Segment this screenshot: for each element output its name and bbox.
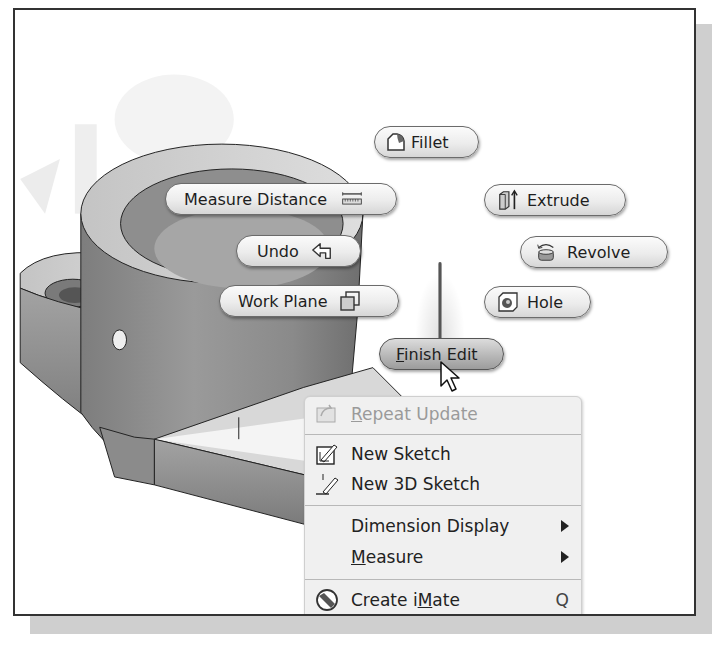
marking-menu-revolve-button[interactable]: Revolve <box>520 236 668 268</box>
create-imate-label: Create iMate <box>351 590 460 610</box>
menu-separator <box>305 579 581 580</box>
repeat-update-icon <box>315 402 339 426</box>
menu-separator <box>305 434 581 435</box>
new-sketch-icon <box>315 442 339 466</box>
create-imate-icon <box>315 588 339 612</box>
menu-item-dimension-display[interactable]: Dimension Display <box>305 511 581 541</box>
dimension-display-label: Dimension Display <box>351 516 509 536</box>
revolve-icon <box>535 241 557 263</box>
marking-menu-fillet-button[interactable]: Fillet <box>374 126 479 158</box>
extrude-icon <box>497 189 519 211</box>
marking-menu-extrude-button[interactable]: Extrude <box>484 184 626 216</box>
marking-menu-direction-indicator <box>438 262 442 348</box>
menu-item-repeat-update[interactable]: Repeat Update <box>305 399 581 429</box>
submenu-arrow-icon <box>561 520 569 532</box>
new-3d-sketch-label: New 3D Sketch <box>351 474 480 494</box>
fillet-label: Fillet <box>407 133 453 152</box>
repeat-update-label: Repeat Update <box>351 404 478 424</box>
measure-label: Measure <box>351 547 423 567</box>
menu-item-create-imate[interactable]: Create iMate Q <box>305 585 581 615</box>
hole-label: Hole <box>519 293 567 312</box>
hole-icon <box>497 291 519 313</box>
marking-menu-undo-button[interactable]: Undo <box>236 235 361 267</box>
menu-item-new-3d-sketch[interactable]: New 3D Sketch <box>305 469 581 499</box>
new-3d-sketch-icon <box>315 472 339 496</box>
finish-edit-label: Finish Edit <box>392 345 482 364</box>
context-menu[interactable]: Repeat Update New Sketch New 3D Sketch D… <box>304 396 582 616</box>
menu-item-measure[interactable]: Measure <box>305 542 581 572</box>
undo-label: Undo <box>253 242 303 261</box>
menu-separator <box>305 505 581 506</box>
marking-menu-measure-distance-button[interactable]: Measure Distance <box>165 183 397 215</box>
extrude-label: Extrude <box>519 191 594 210</box>
work-plane-label: Work Plane <box>234 292 331 311</box>
work-plane-icon <box>339 290 361 312</box>
submenu-arrow-icon <box>561 551 569 563</box>
undo-icon <box>311 240 333 262</box>
create-imate-shortcut: Q <box>556 590 569 610</box>
marking-menu-work-plane-button[interactable]: Work Plane <box>219 285 399 317</box>
measure-distance-label: Measure Distance <box>180 190 331 209</box>
menu-item-new-sketch[interactable]: New Sketch <box>305 439 581 469</box>
revolve-label: Revolve <box>557 243 634 262</box>
mouse-cursor-icon <box>439 360 461 394</box>
measure-distance-icon <box>341 188 363 210</box>
graphics-window[interactable]: Fillet Measure Distance Extrude Undo Rev… <box>13 8 696 616</box>
marking-menu-hole-button[interactable]: Hole <box>484 286 591 318</box>
fillet-icon <box>385 131 407 153</box>
new-sketch-label: New Sketch <box>351 444 451 464</box>
